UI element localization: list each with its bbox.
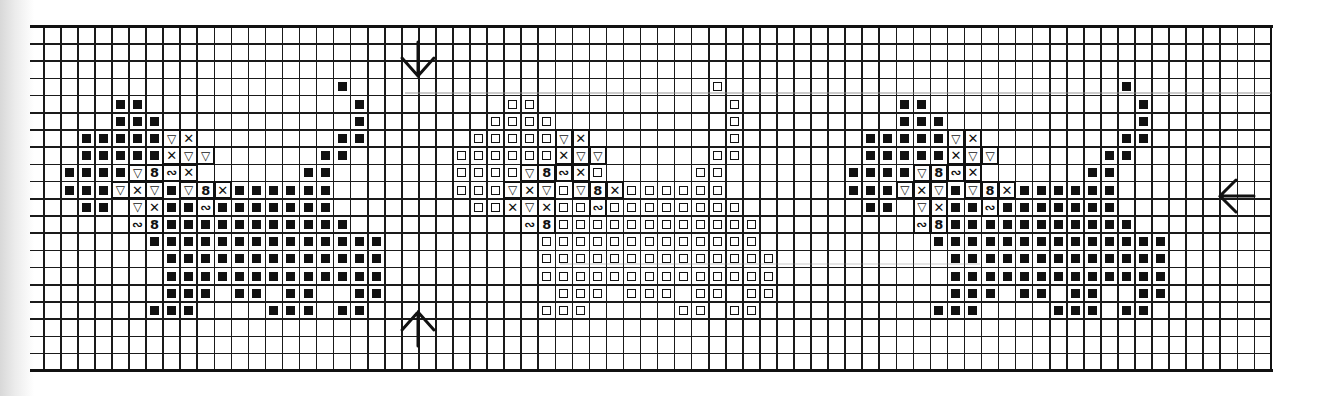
cross-stitch: ✕ bbox=[129, 182, 146, 199]
filled-square-stitch bbox=[1084, 302, 1101, 319]
filled-square-stitch bbox=[1101, 182, 1118, 199]
filled-square-stitch bbox=[931, 147, 948, 164]
filled-square-stitch bbox=[334, 79, 351, 96]
figure-eight-stitch: 8 bbox=[982, 182, 999, 199]
filled-square-stitch bbox=[1067, 268, 1084, 285]
filled-square-stitch bbox=[999, 251, 1016, 268]
filled-square-stitch bbox=[1118, 130, 1135, 147]
open-square-stitch bbox=[453, 182, 470, 199]
filled-square-stitch bbox=[146, 233, 163, 250]
open-square-stitch bbox=[675, 216, 692, 233]
filled-square-stitch bbox=[334, 233, 351, 250]
filled-square-stitch bbox=[1152, 268, 1169, 285]
filled-square-stitch bbox=[1067, 285, 1084, 302]
filled-square-stitch bbox=[1118, 79, 1135, 96]
filled-square-stitch bbox=[163, 302, 180, 319]
open-square-stitch bbox=[726, 130, 743, 147]
cross-stitch: ✕ bbox=[180, 165, 197, 182]
grid-line-horizontal bbox=[30, 60, 1271, 62]
filled-square-stitch bbox=[368, 233, 385, 250]
open-square-stitch bbox=[556, 199, 573, 216]
open-square-stitch bbox=[726, 113, 743, 130]
filled-square-stitch bbox=[948, 199, 965, 216]
filled-square-stitch bbox=[300, 216, 317, 233]
open-square-stitch bbox=[709, 216, 726, 233]
triangle-down-stitch: ▽ bbox=[897, 182, 914, 199]
open-square-stitch bbox=[470, 165, 487, 182]
open-square-stitch bbox=[692, 216, 709, 233]
open-square-stitch bbox=[641, 199, 658, 216]
open-square-stitch bbox=[573, 251, 590, 268]
filled-square-stitch bbox=[300, 268, 317, 285]
triangle-down-stitch: ▽ bbox=[982, 147, 999, 164]
triangle-down-stitch: ▽ bbox=[146, 182, 163, 199]
open-square-stitch bbox=[692, 302, 709, 319]
filled-square-stitch bbox=[1084, 233, 1101, 250]
open-square-stitch bbox=[760, 251, 777, 268]
triangle-down-stitch: ▽ bbox=[129, 199, 146, 216]
wave-stitch: ∾ bbox=[948, 165, 965, 182]
open-square-stitch bbox=[624, 285, 641, 302]
open-square-stitch bbox=[607, 268, 624, 285]
filled-square-stitch bbox=[897, 165, 914, 182]
filled-square-stitch bbox=[862, 147, 879, 164]
filled-square-stitch bbox=[146, 147, 163, 164]
filled-square-stitch bbox=[146, 302, 163, 319]
filled-square-stitch bbox=[95, 182, 112, 199]
filled-square-stitch bbox=[232, 199, 249, 216]
filled-square-stitch bbox=[95, 199, 112, 216]
filled-square-stitch bbox=[897, 130, 914, 147]
figure-eight-stitch: 8 bbox=[538, 216, 555, 233]
open-square-stitch bbox=[538, 130, 555, 147]
filled-square-stitch bbox=[1033, 216, 1050, 233]
triangle-down-stitch: ▽ bbox=[129, 165, 146, 182]
filled-square-stitch bbox=[948, 302, 965, 319]
filled-square-stitch bbox=[163, 285, 180, 302]
open-square-stitch bbox=[556, 182, 573, 199]
figure-eight-stitch: 8 bbox=[538, 165, 555, 182]
filled-square-stitch bbox=[862, 165, 879, 182]
open-square-stitch bbox=[556, 233, 573, 250]
open-square-stitch bbox=[607, 233, 624, 250]
filled-square-stitch bbox=[78, 199, 95, 216]
triangle-down-stitch: ▽ bbox=[965, 182, 982, 199]
figure-eight-stitch: 8 bbox=[146, 216, 163, 233]
triangle-down-stitch: ▽ bbox=[590, 147, 607, 164]
filled-square-stitch bbox=[215, 233, 232, 250]
filled-square-stitch bbox=[368, 268, 385, 285]
filled-square-stitch bbox=[300, 233, 317, 250]
filled-square-stitch bbox=[862, 199, 879, 216]
filled-square-stitch bbox=[334, 251, 351, 268]
filled-square-stitch bbox=[215, 251, 232, 268]
filled-square-stitch bbox=[862, 130, 879, 147]
open-square-stitch bbox=[692, 233, 709, 250]
filled-square-stitch bbox=[215, 199, 232, 216]
open-square-stitch bbox=[538, 233, 555, 250]
cross-stitch: ✕ bbox=[573, 130, 590, 147]
filled-square-stitch bbox=[948, 216, 965, 233]
open-square-stitch bbox=[504, 165, 521, 182]
filled-square-stitch bbox=[1135, 285, 1152, 302]
grid-line-horizontal bbox=[30, 78, 1271, 80]
filled-square-stitch bbox=[965, 251, 982, 268]
filled-square-stitch bbox=[1033, 233, 1050, 250]
wave-stitch: ∾ bbox=[590, 199, 607, 216]
filled-square-stitch bbox=[982, 285, 999, 302]
arrow-down-icon bbox=[398, 40, 438, 80]
filled-square-stitch bbox=[948, 233, 965, 250]
filled-square-stitch bbox=[283, 182, 300, 199]
filled-square-stitch bbox=[317, 199, 334, 216]
filled-square-stitch bbox=[1050, 199, 1067, 216]
filled-square-stitch bbox=[351, 251, 368, 268]
open-square-stitch bbox=[624, 251, 641, 268]
open-square-stitch bbox=[573, 268, 590, 285]
filled-square-stitch bbox=[1050, 268, 1067, 285]
open-square-stitch bbox=[487, 147, 504, 164]
filled-square-stitch bbox=[266, 251, 283, 268]
filled-square-stitch bbox=[879, 130, 896, 147]
filled-square-stitch bbox=[180, 268, 197, 285]
filled-square-stitch bbox=[1084, 165, 1101, 182]
open-square-stitch bbox=[624, 182, 641, 199]
open-square-stitch bbox=[709, 285, 726, 302]
filled-square-stitch bbox=[197, 233, 214, 250]
